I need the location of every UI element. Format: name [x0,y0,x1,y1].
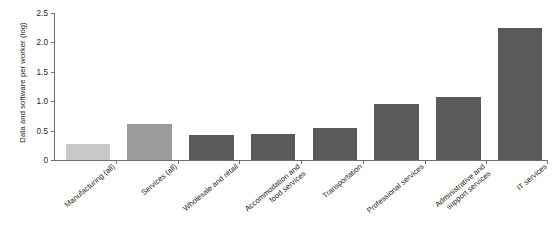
bar [313,128,357,160]
y-tick-label: 0 [43,156,48,165]
x-axis-label-line: Transportation [321,162,364,200]
y-tick-mark [51,131,54,132]
bar [127,124,171,160]
bar-chart: Data and software per worker (log) 00.51… [0,0,556,245]
x-axis-label-line: Wholesale and retail [182,162,240,213]
x-axis-label: Wholesale and retail [182,162,241,213]
x-axis-label-line: Services (all) [139,162,178,197]
x-axis-label: Accommodation andfood services [243,162,308,221]
plot-area: 00.51.01.52.02.5 [54,13,548,160]
y-axis-line [54,13,55,160]
x-axis-label: Professional services [365,162,426,215]
y-tick-mark [51,72,54,73]
bar [436,97,480,160]
y-tick-label: 2.0 [37,38,48,47]
y-tick-label: 1.0 [37,97,48,106]
x-axis-label: Services (all) [139,162,179,197]
y-tick-mark [51,160,54,161]
bar [189,135,233,160]
x-axis-label: IT services [515,162,549,193]
y-tick-mark [51,101,54,102]
y-tick-mark [51,13,54,14]
y-tick-label: 2.5 [37,9,48,18]
bar [498,28,542,160]
bar [374,104,418,160]
x-axis-label-line: Professional services [365,162,426,215]
x-axis-label: Administrative andsupport services [433,162,493,217]
y-tick-label: 0.5 [37,126,48,135]
x-axis-label-line: Manufacturing (all) [63,162,117,209]
x-axis-label: Transportation [321,162,364,201]
bar [251,134,295,160]
x-axis-label: Manufacturing (all) [63,162,117,210]
bar [66,144,110,160]
y-tick-mark [51,42,54,43]
y-tick-label: 1.5 [37,67,48,76]
x-axis-labels: Manufacturing (all)Services (all)Wholesa… [54,162,556,245]
x-axis-label-line: IT services [515,162,549,192]
y-axis-title: Data and software per worker (log) [18,3,27,163]
